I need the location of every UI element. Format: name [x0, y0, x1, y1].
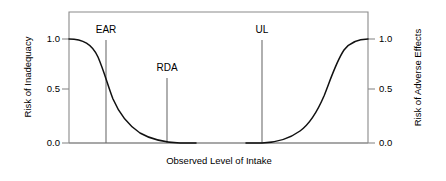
marker-label-ul: UL [242, 24, 282, 35]
curve-risk-of-adverse-effects [246, 39, 368, 143]
y-tick-right-1: 1.0 [379, 33, 406, 44]
y-tick-left-1: 1.0 [33, 33, 60, 44]
chart-figure: 1.0 0.5 0.0 1.0 0.5 0.0 EAR RDA UL Obser… [0, 0, 446, 181]
y-axis-right-ticks [368, 39, 375, 143]
y-tick-left-2: 0.5 [33, 83, 60, 94]
y-axis-right-title: Risk of Adverse Effects [412, 0, 423, 155]
marker-lines [106, 40, 262, 143]
x-axis-title: Observed Level of Intake [119, 155, 319, 166]
y-axis-left-ticks [62, 39, 69, 143]
y-axis-left-title: Risk of Inadequacy [22, 11, 33, 143]
marker-label-ear: EAR [86, 24, 126, 35]
y-tick-left-3: 0.0 [33, 137, 60, 148]
y-tick-right-3: 0.0 [379, 137, 406, 148]
curve-risk-of-inadequacy [69, 39, 196, 143]
marker-label-rda: RDA [147, 62, 187, 73]
y-tick-right-2: 0.5 [379, 83, 406, 94]
